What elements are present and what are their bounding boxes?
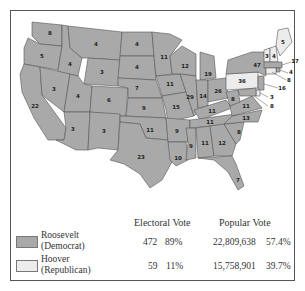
ev-label: 17 bbox=[291, 58, 299, 64]
ev-label: 14 bbox=[199, 93, 207, 99]
hoover-ev: 59 bbox=[148, 261, 158, 271]
ev-label: 47 bbox=[253, 62, 261, 68]
ev-label: 4 bbox=[135, 41, 139, 47]
ev-label: 11 bbox=[242, 103, 250, 109]
ev-label: 9 bbox=[175, 128, 179, 134]
ev-label: 13 bbox=[242, 115, 250, 121]
ev-label: 7 bbox=[236, 177, 240, 183]
us-electoral-map: 8 5 22 4 3 4 3 4 3 6 3 4 4 7 9 11 23 11 … bbox=[0, 0, 305, 205]
ev-label: 22 bbox=[31, 103, 39, 109]
ev-label: 11 bbox=[166, 81, 174, 87]
ev-label: 9 bbox=[189, 143, 193, 149]
ev-label: 3 bbox=[270, 94, 274, 100]
hoover-pv-pct: 39.7% bbox=[266, 261, 291, 271]
state-kansas bbox=[126, 98, 166, 118]
ev-label: 23 bbox=[137, 154, 145, 160]
roosevelt-ev: 472 bbox=[143, 237, 157, 247]
ev-label: 4 bbox=[272, 53, 276, 59]
ev-label: 15 bbox=[172, 104, 180, 110]
ev-label: 19 bbox=[204, 71, 212, 77]
ev-label: 3 bbox=[102, 128, 106, 134]
state-delaware bbox=[256, 90, 260, 96]
ev-label: 8 bbox=[231, 96, 235, 102]
ev-label: 11 bbox=[201, 140, 209, 146]
ev-label: 11 bbox=[206, 119, 214, 125]
ev-label: 9 bbox=[142, 105, 146, 111]
ev-label: 12 bbox=[218, 140, 226, 146]
ev-label: 5 bbox=[40, 53, 44, 59]
ev-label: 6 bbox=[107, 97, 111, 103]
roosevelt-label: Roosevelt (Democrat) bbox=[41, 230, 85, 252]
ev-label: 5 bbox=[281, 39, 285, 45]
popular-vote-header: Popular Vote bbox=[219, 217, 271, 228]
ev-label: 3 bbox=[71, 126, 75, 132]
ev-label: 8 bbox=[287, 77, 291, 83]
ev-label: 4 bbox=[68, 61, 72, 67]
ev-label: 7 bbox=[135, 85, 139, 91]
state-florida bbox=[198, 156, 244, 190]
hoover-label: Hoover (Republican) bbox=[41, 254, 91, 276]
ev-label: 4 bbox=[94, 41, 98, 47]
ev-label: 3 bbox=[52, 86, 56, 92]
roosevelt-ev-pct: 89% bbox=[165, 237, 182, 247]
hoover-ev-pct: 11% bbox=[166, 261, 183, 271]
ev-label: 16 bbox=[278, 85, 286, 91]
legend: Electoral Vote Popular Vote Roosevelt (D… bbox=[10, 205, 295, 281]
state-massachusetts bbox=[264, 62, 282, 68]
ev-label: 8 bbox=[48, 30, 52, 36]
ev-label: 4 bbox=[76, 93, 80, 99]
ev-label: 11 bbox=[160, 54, 168, 60]
roosevelt-swatch bbox=[16, 236, 38, 248]
ev-label: 11 bbox=[146, 127, 154, 133]
state-rhode-island bbox=[276, 68, 280, 72]
ev-label: 4 bbox=[289, 69, 293, 75]
ev-label: 8 bbox=[270, 103, 274, 109]
ev-label: 8 bbox=[237, 129, 241, 135]
ev-label: 29 bbox=[186, 94, 194, 100]
ev-label: 36 bbox=[238, 78, 246, 84]
hoover-swatch bbox=[16, 260, 38, 272]
ev-label: 10 bbox=[174, 155, 182, 161]
ev-label: 3 bbox=[265, 53, 269, 59]
ev-label: 3 bbox=[100, 69, 104, 75]
state-connecticut bbox=[266, 68, 276, 74]
state-new-jersey bbox=[258, 76, 264, 90]
electoral-vote-header: Electoral Vote bbox=[134, 217, 191, 228]
roosevelt-pv: 22,809,638 bbox=[213, 237, 256, 247]
ev-label: 12 bbox=[181, 63, 189, 69]
roosevelt-pv-pct: 57.4% bbox=[266, 237, 291, 247]
hoover-pv: 15,758,901 bbox=[213, 261, 256, 271]
ev-label: 11 bbox=[208, 108, 216, 114]
ev-label: 4 bbox=[135, 64, 139, 70]
ev-label: 26 bbox=[214, 88, 222, 94]
